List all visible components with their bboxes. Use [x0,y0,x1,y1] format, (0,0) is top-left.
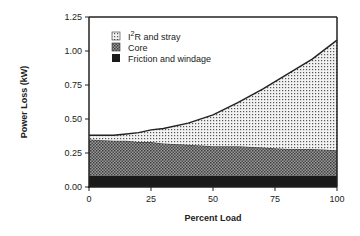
x-tick-label: 100 [329,194,344,204]
legend-label-core: Core [128,43,148,53]
y-axis-title: Power Loss (kW) [19,66,29,139]
stacked-areas [89,40,337,187]
y-tick-label: 0.75 [64,80,82,90]
x-tick-label: 25 [146,194,156,204]
x-axis-title: Percent Load [184,213,241,223]
legend-item-core: Core [112,43,148,53]
legend-label-i2r: I2R and stray [128,30,181,42]
crosshatch-swatch-icon [112,43,120,51]
y-tick-label: 0.50 [64,114,82,124]
dots-swatch-icon [112,32,120,40]
y-tick-label: 0.25 [64,148,82,158]
power-loss-chart: 0.000.250.500.751.001.25 0255075100 Powe… [0,0,360,236]
y-tick-label: 0.00 [64,182,82,192]
legend-item-friction: Friction and windage [112,54,211,64]
y-tick-label: 1.00 [64,46,82,56]
legend-item-i2r: I2R and stray [112,30,181,42]
area-friction-and-windage [89,176,337,187]
x-tick-label: 75 [270,194,280,204]
x-tick-label: 50 [208,194,218,204]
legend: I2R and stray Core Friction and windage [112,30,211,64]
x-tick-label: 0 [86,194,91,204]
y-ticks: 0.000.250.500.751.001.25 [64,12,89,192]
x-ticks: 0255075100 [86,187,344,204]
solid-swatch-icon [112,54,120,62]
legend-label-friction: Friction and windage [128,54,211,64]
y-tick-label: 1.25 [64,12,82,22]
